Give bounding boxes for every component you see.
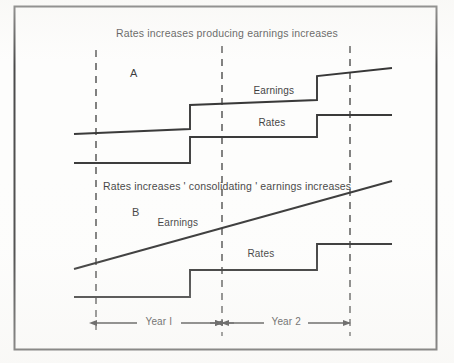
panel-b-rates-label: Rates: [248, 248, 275, 259]
figure-border: [15, 7, 437, 350]
panel-a-rates-label: Rates: [259, 117, 286, 128]
year-2-label: Year 2: [270, 316, 303, 327]
panel-a-earnings-line: [74, 68, 392, 134]
panel-b-earnings-line: [74, 181, 392, 269]
figure-container: Rates increases producing earnings incre…: [0, 0, 454, 363]
panel-b-title: Rates increases ' consolidating ' earnin…: [103, 180, 351, 192]
year-1-label: Year I: [144, 316, 175, 327]
panel-a-title: Rates increases producing earnings incre…: [116, 27, 338, 39]
panel-b-series-group: [74, 181, 392, 297]
panel-b-earnings-label: Earnings: [158, 217, 199, 228]
panel-b-rates-line: [74, 244, 392, 297]
panel-a-series-group: [74, 68, 392, 163]
panel-a-rates-line: [74, 115, 392, 163]
panel-b-letter: B: [132, 206, 140, 218]
panel-a-letter: A: [130, 67, 138, 79]
panel-a-earnings-label: Earnings: [254, 85, 295, 96]
